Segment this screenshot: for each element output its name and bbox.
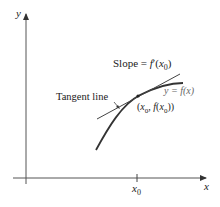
tangent-diagram: y x x0 Slope = f′(x0) y = f(x) (x0, f(x0… xyxy=(0,0,220,207)
tangency-point xyxy=(136,94,139,97)
tangent-line-label: Tangent line xyxy=(56,91,108,102)
x-axis-label: x xyxy=(203,180,209,192)
point-label: (x0, f(x0)) xyxy=(137,101,174,115)
slope-label: Slope = f′(x0) xyxy=(113,57,172,72)
y-axis-label: y xyxy=(15,7,21,19)
x0-tick-label: x0 xyxy=(131,182,141,197)
curve-label: y = f(x) xyxy=(163,85,195,97)
